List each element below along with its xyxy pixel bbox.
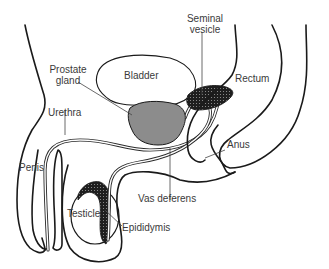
- leader-anus: [205, 150, 225, 158]
- label-vas-deferens: Vas deferens: [138, 193, 196, 204]
- penis-inner-outline: [53, 150, 62, 250]
- label-seminal-vesicle-line1: Seminal: [185, 13, 225, 24]
- label-rectum: Rectum: [235, 73, 269, 84]
- label-bladder: Bladder: [124, 70, 158, 81]
- label-epididymis: Epididymis: [122, 222, 170, 233]
- label-prostate-line1: Prostate: [48, 64, 88, 75]
- label-seminal-vesicle: Seminal vesicle: [185, 13, 225, 35]
- body-front-outline: [17, 25, 45, 253]
- label-prostate-line2: gland: [48, 75, 88, 86]
- label-urethra: Urethra: [48, 107, 81, 118]
- anatomy-diagram: Seminal vesicle Prostate gland Bladder R…: [0, 0, 329, 269]
- seminal-vesicle-shape: [187, 85, 233, 110]
- label-testicle: Testicle: [67, 208, 100, 219]
- leader-prostate: [78, 82, 132, 115]
- label-prostate-gland: Prostate gland: [48, 64, 88, 86]
- prostate-shape: [128, 101, 185, 145]
- label-seminal-vesicle-line2: vesicle: [185, 24, 225, 35]
- label-penis: Penis: [19, 162, 44, 173]
- label-anus: Anus: [227, 139, 250, 150]
